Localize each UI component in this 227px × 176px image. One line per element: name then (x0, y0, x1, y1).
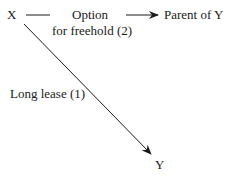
lease-label: Long lease (1) (10, 87, 85, 101)
node-y: Y (155, 158, 164, 172)
node-parent-of-y: Parent of Y (164, 8, 223, 22)
option-label-line2: for freehold (2) (52, 24, 132, 38)
node-x: X (7, 8, 16, 22)
option-label-line1: Option (72, 8, 108, 22)
